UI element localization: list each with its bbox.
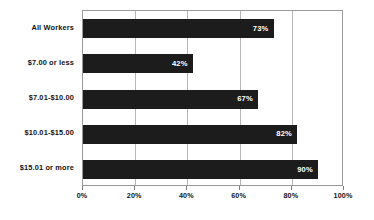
x-tick-mark (186, 186, 187, 190)
bar-value-label: 42% (172, 60, 188, 68)
x-tick-mark (134, 186, 135, 190)
x-tick-mark (239, 186, 240, 190)
bar-series: 73% 42% 67% 82% 90% (83, 11, 342, 185)
bar: 73% (83, 19, 274, 38)
category-label: $7.00 or less (0, 59, 74, 66)
bar: 82% (83, 125, 297, 144)
x-tick-label: 60% (231, 192, 246, 199)
x-tick-mark (82, 186, 83, 190)
bar-value-label: 90% (297, 166, 313, 174)
x-axis: 0%20%40%60%80%100% (82, 186, 343, 192)
category-label: All Workers (0, 24, 74, 31)
bar: 67% (83, 90, 258, 109)
bar-value-label: 67% (237, 95, 253, 103)
x-tick-label: 0% (77, 192, 88, 199)
bar: 90% (83, 160, 318, 179)
bar-value-label: 73% (253, 25, 269, 33)
x-tick-label: 20% (127, 192, 142, 199)
x-tick-label: 100% (334, 192, 353, 199)
bar-value-label: 82% (276, 130, 292, 138)
category-label: $15.01 or more (0, 164, 74, 171)
x-tick-mark (291, 186, 292, 190)
bar-chart: All Workers $7.00 or less $7.01-$10.00 $… (0, 0, 374, 220)
category-label: $7.01-$10.00 (0, 94, 74, 101)
x-tick-label: 40% (179, 192, 194, 199)
x-tick-mark (343, 186, 344, 190)
bar: 42% (83, 54, 193, 73)
category-axis: All Workers $7.00 or less $7.01-$10.00 $… (0, 10, 78, 186)
plot-area: 73% 42% 67% 82% 90% (82, 10, 343, 186)
category-label: $10.01-$15.00 (0, 129, 74, 136)
x-tick-label: 80% (283, 192, 298, 199)
